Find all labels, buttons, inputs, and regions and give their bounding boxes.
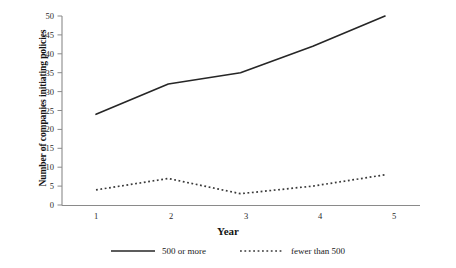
y-tick-label: 30 (38, 87, 54, 97)
x-axis-title: Year (0, 225, 456, 237)
x-tick-label: 1 (86, 211, 106, 221)
y-tick-label: 50 (38, 11, 54, 21)
legend-label: 500 or more (162, 246, 206, 256)
x-tick-label: 3 (236, 211, 256, 221)
y-tick-label: 40 (38, 49, 54, 59)
legend-item-fewer-than-500: fewer than 500 (240, 246, 345, 256)
y-tick-label: 45 (38, 30, 54, 40)
legend-label: fewer than 500 (291, 246, 345, 256)
legend-item-500-or-more: 500 or more (111, 246, 206, 256)
y-tick-label: 25 (38, 106, 54, 116)
legend-dotted-line-icon (240, 247, 284, 255)
line-chart: Number of companies initiating policies … (0, 0, 456, 268)
x-tick-label: 5 (384, 211, 404, 221)
y-tick-label: 35 (38, 68, 54, 78)
y-tick-label: 15 (38, 143, 54, 153)
y-tick-label: 5 (38, 181, 54, 191)
legend-solid-line-icon (111, 247, 155, 255)
series-line-fewer-than-500 (96, 175, 385, 194)
y-tick-label: 10 (38, 162, 54, 172)
x-tick-label: 4 (310, 211, 330, 221)
chart-legend: 500 or more fewer than 500 (0, 246, 456, 256)
y-tick-marks (58, 16, 63, 205)
x-tick-label: 2 (161, 211, 181, 221)
series-line-500-or-more (96, 16, 385, 114)
y-tick-label: 20 (38, 124, 54, 134)
y-tick-label: 0 (38, 200, 54, 210)
